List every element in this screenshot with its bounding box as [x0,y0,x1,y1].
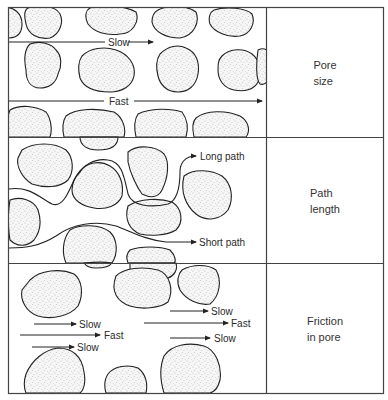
grain [178,266,220,305]
grain [63,109,125,137]
slow-label: Slow [108,37,130,48]
grain [127,247,176,263]
fast-label-left: Fast [104,330,124,341]
grain [218,50,260,91]
slow-label-right-bottom: Slow [214,333,236,344]
grain [128,147,168,197]
path-length-panel [9,137,232,263]
row-label-pore-size: Pore size [313,57,336,89]
grain [22,271,82,318]
grain [25,6,62,38]
fast-label: Fast [109,96,129,107]
fast-label-right: Fast [231,318,251,329]
grain [9,198,41,245]
grain [152,6,197,38]
grain [25,348,85,393]
grain [72,163,123,209]
slow-label-left-bottom: Slow [77,342,99,353]
slow-label-right-top: Slow [211,306,233,317]
long-path-label: Long path [200,151,245,162]
row-label-cell-path-length: Path length [267,138,383,263]
friction-panel [22,262,221,393]
row-label-cell-pore-size: Pore size [267,8,383,137]
grain [135,109,188,137]
grain [8,106,51,137]
grain [25,42,61,88]
row-label-friction-in-pore: Friction in pore [307,313,343,345]
pore-size-panel [0,6,272,137]
grain [18,144,73,187]
grain [114,268,171,308]
grain [193,112,249,137]
grain [105,366,147,393]
grain [63,226,116,263]
row-label-cell-friction: Friction in pore [267,264,383,393]
grain [0,8,22,38]
grain [157,46,199,92]
grain [183,171,232,219]
grain [161,344,220,393]
grain [79,48,135,92]
grain [80,137,118,150]
short-path-label: Short path [199,237,245,248]
grain [86,6,137,35]
slow-label-left-top: Slow [79,319,101,330]
grain [127,199,181,235]
row-label-path-length: Path length [310,185,340,217]
grain [209,8,253,36]
